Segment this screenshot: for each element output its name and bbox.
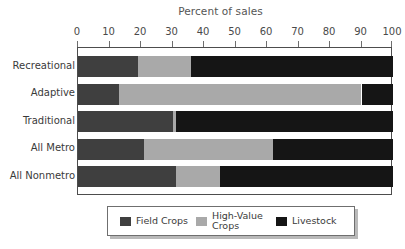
bar-segment-field	[78, 56, 138, 77]
bar-row	[78, 139, 391, 160]
x-axis: 0102030405060708090100	[77, 26, 392, 48]
x-tick-label: 10	[102, 26, 115, 37]
x-tick-label: 30	[165, 26, 178, 37]
legend-swatch-icon	[120, 217, 131, 226]
y-axis-category-labels: RecreationalAdaptiveTraditionalAll Metro…	[0, 47, 75, 195]
x-tick-label: 90	[354, 26, 367, 37]
legend-swatch-icon	[196, 217, 207, 226]
stacked-bar-chart: Percent of sales 0102030405060708090100 …	[0, 0, 405, 249]
legend: Field CropsHigh-Value CropsLivestock	[107, 206, 355, 236]
bar-segment-field	[78, 111, 173, 132]
legend-item[interactable]: Field Crops	[120, 207, 188, 235]
legend-item[interactable]: Livestock	[276, 207, 337, 235]
bar-segment-highval	[119, 84, 362, 105]
x-tick-label: 0	[74, 26, 80, 37]
bar-row	[78, 111, 391, 132]
x-tick-label: 100	[382, 26, 401, 37]
legend-label: High-Value Crops	[212, 211, 263, 231]
legend-swatch-icon	[276, 217, 287, 226]
x-tick-label: 80	[323, 26, 336, 37]
bar-segment-livestock	[191, 56, 393, 77]
bar-segment-field	[78, 84, 119, 105]
bar-segment-livestock	[220, 166, 393, 187]
category-label: Recreational	[1, 60, 75, 71]
category-label: All Nonmetro	[1, 170, 75, 181]
category-label: All Metro	[1, 142, 75, 153]
bar-segment-livestock	[362, 84, 394, 105]
x-tick-label: 40	[197, 26, 210, 37]
bar-row	[78, 84, 391, 105]
x-tick-label: 50	[228, 26, 241, 37]
legend-label: Livestock	[292, 216, 337, 226]
bar-segment-field	[78, 139, 144, 160]
bar-row	[78, 56, 391, 77]
bar-row	[78, 166, 391, 187]
chart-title: Percent of sales	[0, 5, 405, 17]
x-tick-label: 60	[260, 26, 273, 37]
bar-segment-livestock	[176, 111, 393, 132]
legend-label: Field Crops	[136, 216, 188, 226]
bar-segment-highval	[138, 56, 192, 77]
plot-area	[77, 47, 392, 195]
bar-segment-field	[78, 166, 176, 187]
legend-item[interactable]: High-Value Crops	[196, 207, 263, 235]
bars-layer	[78, 48, 391, 194]
bar-segment-highval	[176, 166, 220, 187]
bar-segment-livestock	[273, 139, 393, 160]
x-tick-label: 20	[134, 26, 147, 37]
bar-segment-highval	[144, 139, 273, 160]
category-label: Adaptive	[1, 87, 75, 98]
category-label: Traditional	[1, 115, 75, 126]
x-tick-label: 70	[291, 26, 304, 37]
